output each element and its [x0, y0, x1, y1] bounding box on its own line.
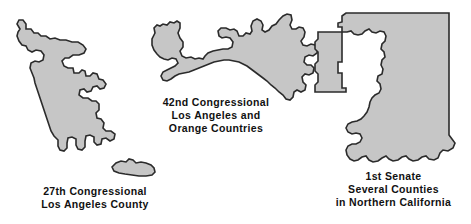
caption-42nd-line-3: Orange Countries	[141, 122, 291, 135]
district-shape-27th-main	[17, 20, 115, 151]
caption-42nd-congressional: 42nd Congressional Los Angeles and Orang…	[141, 96, 291, 136]
caption-1st-line-2: Several Counties	[316, 183, 471, 196]
district-maps-figure: 27th Congressional Los Angeles County 42…	[0, 0, 471, 224]
caption-27th-congressional: 27th Congressional Los Angeles County	[0, 185, 190, 211]
caption-27th-line-1: 27th Congressional	[0, 185, 190, 198]
caption-27th-line-2: Los Angeles County	[0, 198, 190, 211]
district-shape-42nd	[152, 14, 318, 100]
district-shape-1st-senate	[315, 13, 455, 162]
district-shape-27th-island	[112, 159, 155, 176]
caption-1st-line-1: 1st Senate	[316, 170, 471, 183]
caption-42nd-line-1: 42nd Congressional	[141, 96, 291, 109]
caption-1st-senate: 1st Senate Several Counties in Northern …	[316, 170, 471, 210]
caption-42nd-line-2: Los Angeles and	[141, 109, 291, 122]
caption-1st-line-3: in Northern California	[316, 196, 471, 209]
